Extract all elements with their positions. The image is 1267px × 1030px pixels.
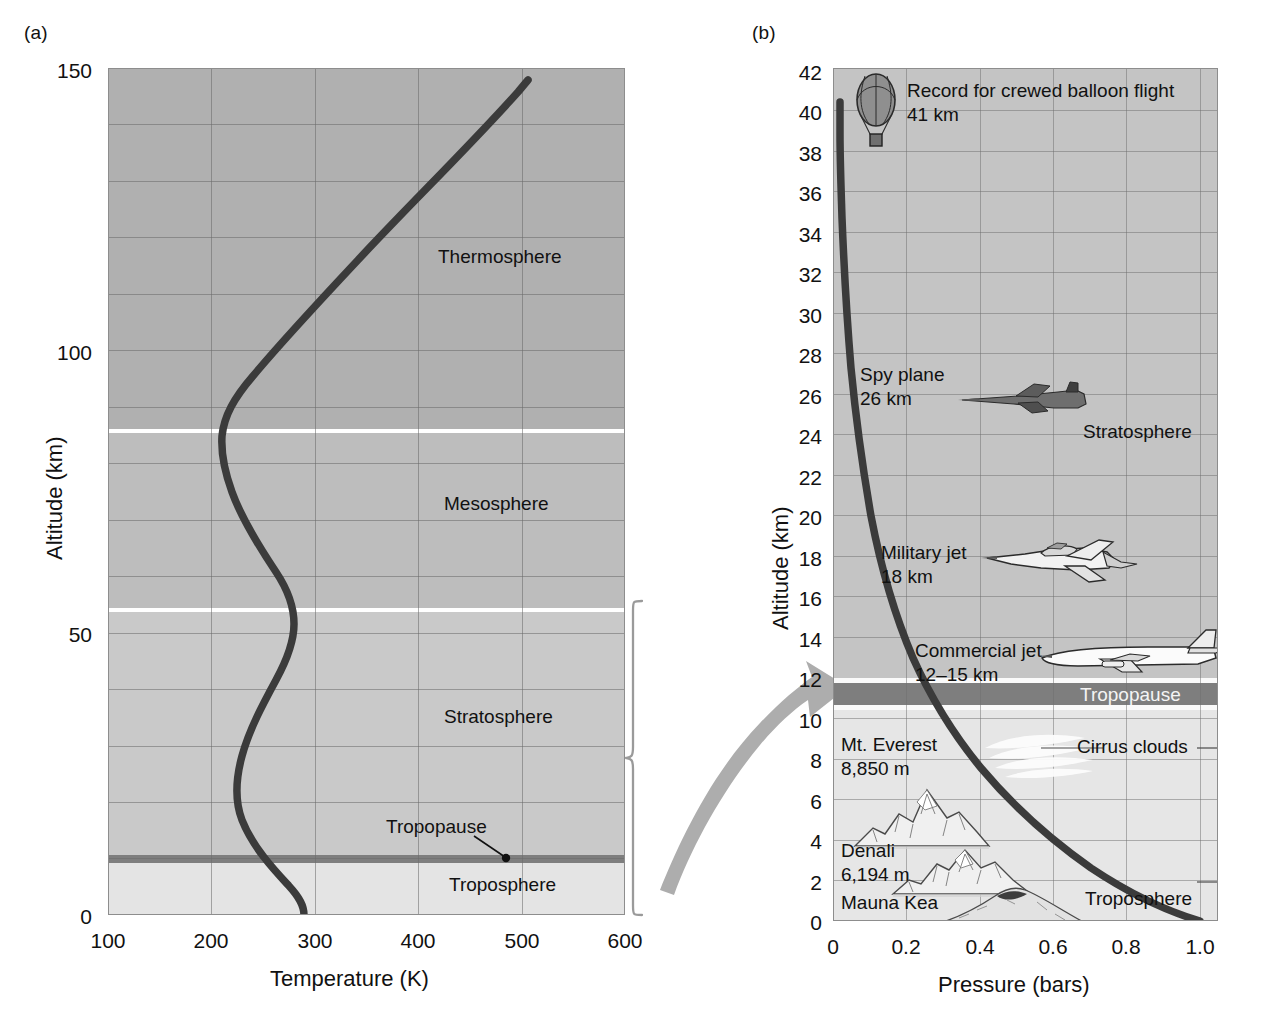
panel-a-xtick-200: 200 — [181, 930, 241, 951]
panel-a-letter: (a) — [24, 22, 48, 44]
temperature-profile-curve — [108, 68, 625, 915]
panel-b-ytick-16: 16 — [770, 588, 822, 609]
panel-b-ytick-20: 20 — [770, 507, 822, 528]
panel-a-label-tropopause: Tropopause — [386, 816, 487, 838]
military-jet-annotation-value: 18 km — [881, 566, 933, 588]
panel-a-xtick-400: 400 — [388, 930, 448, 951]
panel-b-xtick-04: 0.4 — [950, 936, 1010, 957]
panel-b-ytick-36: 36 — [770, 183, 822, 204]
panel-a-ytick-50: 50 — [30, 624, 92, 645]
panel-b-xtick-06: 0.6 — [1023, 936, 1083, 957]
everest-annotation-title: Mt. Everest — [841, 734, 937, 756]
link-arrow-icon — [660, 661, 848, 895]
panel-b-ytick-4: 4 — [770, 831, 822, 852]
panel-a-ytick-0: 0 — [30, 906, 92, 927]
panel-b-xtick-08: 0.8 — [1096, 936, 1156, 957]
panel-b-ytick-32: 32 — [770, 264, 822, 285]
panel-a-x-axis-title: Temperature (K) — [270, 966, 429, 992]
panel-b-xtick-0: 0 — [803, 936, 863, 957]
panel-b-ytick-30: 30 — [770, 305, 822, 326]
panel-b-x-axis-title: Pressure (bars) — [938, 972, 1090, 998]
panel-a-label-thermosphere: Thermosphere — [438, 246, 562, 268]
commercial-jet-annotation-title: Commercial jet — [915, 640, 1042, 662]
panel-a-label-troposphere: Troposphere — [449, 874, 556, 896]
balloon-annotation-value: 41 km — [907, 104, 959, 126]
spy-plane-annotation-value: 26 km — [860, 388, 912, 410]
panel-b-xtick-02: 0.2 — [876, 936, 936, 957]
panel-b-ytick-12: 12 — [770, 669, 822, 690]
balloon-icon — [849, 72, 903, 152]
mountain-maunakea-icon — [937, 880, 1089, 921]
panel-b-label-troposphere: Troposphere — [1085, 888, 1192, 910]
panel-a-label-mesosphere: Mesosphere — [444, 493, 549, 515]
brace-icon — [626, 601, 642, 915]
cirrus-annotation-label: Cirrus clouds — [1077, 736, 1188, 758]
panel-b-ytick-6: 6 — [770, 791, 822, 812]
panel-b-letter: (b) — [752, 22, 776, 44]
denali-annotation-title: Denali — [841, 840, 895, 862]
panel-b-plot-area: Record for crewed balloon flight 41 km S… — [833, 68, 1218, 921]
troposphere-leader-line — [1197, 880, 1218, 884]
panel-a-plot-area: Thermosphere Mesosphere Stratosphere Tro… — [108, 68, 625, 915]
panel-b-xtick-10: 1.0 — [1170, 936, 1230, 957]
panel-b-ytick-34: 34 — [770, 224, 822, 245]
panel-b-label-stratosphere: Stratosphere — [1083, 421, 1192, 443]
panel-b-ytick-22: 22 — [770, 467, 822, 488]
military-jet-icon — [981, 536, 1141, 592]
panel-b-ytick-40: 40 — [770, 102, 822, 123]
cirrus-leader-line-right — [1197, 746, 1218, 750]
commercial-jet-icon — [1038, 628, 1218, 684]
maunakea-annotation-title: Mauna Kea — [841, 892, 938, 914]
panel-a-label-stratosphere: Stratosphere — [444, 706, 553, 728]
panel-b-label-tropopause: Tropopause — [1080, 684, 1181, 706]
panel-a-xtick-300: 300 — [285, 930, 345, 951]
maunakea-annotation-value: 4,207 m — [841, 916, 910, 921]
panel-b-ytick-28: 28 — [770, 345, 822, 366]
panel-a-xtick-100: 100 — [78, 930, 138, 951]
panel-a-ytick-100: 100 — [30, 342, 92, 363]
panel-a-ytick-150: 150 — [30, 60, 92, 81]
spy-plane-annotation-title: Spy plane — [860, 364, 945, 386]
panel-b-ytick-2: 2 — [770, 872, 822, 893]
military-jet-annotation-title: Military jet — [881, 542, 967, 564]
everest-annotation-value: 8,850 m — [841, 758, 910, 780]
panel-b-ytick-42: 42 — [770, 62, 822, 83]
balloon-annotation-title: Record for crewed balloon flight — [907, 80, 1174, 102]
panel-b-ytick-24: 24 — [770, 426, 822, 447]
panel-b-ytick-18: 18 — [770, 548, 822, 569]
panel-b-ytick-14: 14 — [770, 629, 822, 650]
panel-b-ytick-38: 38 — [770, 143, 822, 164]
panel-a-y-axis-title: Altitude (km) — [42, 437, 68, 560]
panel-a-xtick-500: 500 — [492, 930, 552, 951]
commercial-jet-annotation-value: 12–15 km — [915, 664, 998, 686]
panel-b-ytick-10: 10 — [770, 710, 822, 731]
panel-b-ytick-8: 8 — [770, 750, 822, 771]
spy-plane-icon — [958, 380, 1098, 422]
panel-b-ytick-0: 0 — [770, 912, 822, 933]
panel-b-ytick-26: 26 — [770, 386, 822, 407]
atmosphere-figure: (a) Altitude (km) 0 50 100 150 — [0, 0, 1267, 1030]
